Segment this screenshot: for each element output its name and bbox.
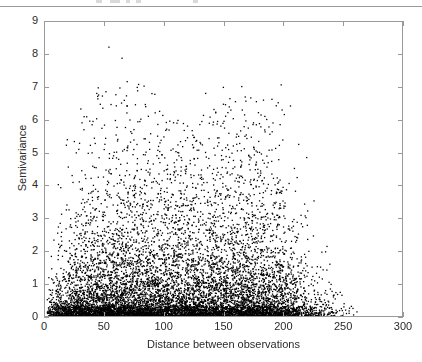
y-tick-right-7 [398,87,403,88]
x-tick-top-100 [164,21,165,26]
y-tick-right-8 [398,54,403,55]
y-tick-8 [44,54,49,55]
x-tick-label-250: 250 [323,320,363,333]
y-tick-2 [44,251,49,252]
y-tick-right-3 [398,218,403,219]
x-tick-top-50 [104,21,105,26]
x-tick-100 [164,312,165,317]
y-tick-right-9 [398,21,403,22]
x-tick-150 [224,312,225,317]
x-tick-50 [104,312,105,317]
caption-fragment-0 [96,0,102,3]
x-tick-top-150 [224,21,225,26]
x-tick-200 [283,312,284,317]
y-axis-label: Semivariance [16,98,28,218]
x-tick-label-300: 300 [383,320,422,333]
y-tick-label-8: 8 [12,48,38,59]
y-tick-7 [44,87,49,88]
x-tick-label-100: 100 [144,320,184,333]
y-tick-right-4 [398,185,403,186]
y-tick-3 [44,218,49,219]
x-tick-label-200: 200 [263,320,303,333]
y-tick-right-1 [398,284,403,285]
caption-fragment-4 [193,0,198,3]
x-tick-top-250 [343,21,344,26]
y-tick-right-2 [398,251,403,252]
y-tick-right-5 [398,153,403,154]
y-tick-label-2: 2 [12,245,38,256]
y-tick-1 [44,284,49,285]
x-tick-250 [343,312,344,317]
y-tick-9 [44,21,49,22]
x-tick-label-150: 150 [204,320,244,333]
y-tick-5 [44,153,49,154]
caption-fragment-2 [126,0,130,3]
y-tick-label-1: 1 [12,278,38,289]
plot-axes-box [44,21,403,317]
caption-fragment-3 [136,0,141,3]
x-tick-300 [403,312,404,317]
x-tick-label-50: 50 [84,320,124,333]
y-tick-label-7: 7 [12,81,38,92]
y-tick-0 [44,317,49,318]
y-tick-4 [44,185,49,186]
y-tick-6 [44,120,49,121]
x-axis-label: Distance between observations [44,338,403,350]
y-tick-right-0 [398,317,403,318]
y-tick-right-6 [398,120,403,121]
semivariogram-figure: 050100150200250300 0123456789 Distance b… [0,0,422,362]
scatter-points-canvas [45,22,403,317]
caption-fragment-1 [110,0,120,3]
x-tick-top-200 [283,21,284,26]
x-tick-top-300 [403,21,404,26]
y-tick-label-9: 9 [12,15,38,26]
top-horizontal-rule [0,6,422,7]
y-tick-label-0: 0 [12,311,38,322]
